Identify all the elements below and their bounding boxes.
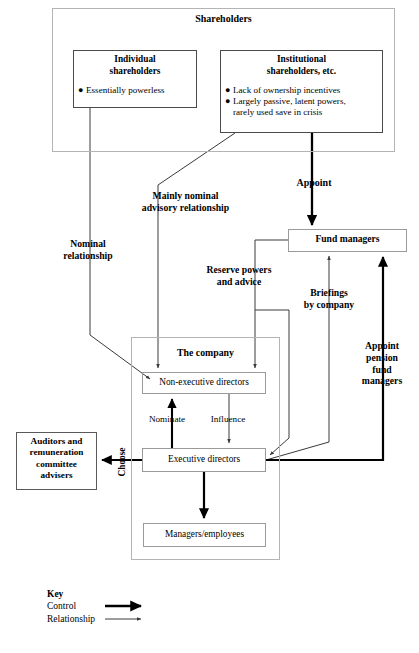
edge-label-briefings: Briefings by company — [291, 287, 367, 311]
individual-shareholders-bullets: ● Essentially powerless — [78, 85, 194, 96]
institutional-shareholders-bullets: ● Lack of ownership incentives ● Largely… — [225, 85, 381, 118]
bullet-text-continuation: rarely used save in crisis — [225, 107, 381, 118]
edge-label-mainly-nominal: Mainly nominal advisory relationship — [113, 190, 258, 214]
bullet-dot-icon: ● — [78, 85, 86, 96]
bullet-item: ● Largely passive, latent powers, — [225, 96, 381, 107]
bullet-dot-icon: ● — [225, 96, 233, 107]
edge-label-appoint-pension: Appoint pension fund managers — [345, 340, 419, 387]
institutional-shareholders-title: Institutional shareholders, etc. — [220, 54, 383, 77]
governance-diagram: Shareholders Individual shareholders ● E… — [0, 0, 419, 653]
edge-label-appoint-top: Appoint — [278, 177, 350, 188]
fund-managers-label: Fund managers — [288, 234, 407, 245]
edge-label-nominal-relationship: Nominal relationship — [42, 238, 134, 262]
company-group-title: The company — [131, 348, 280, 359]
bullet-item: ● Lack of ownership incentives — [225, 85, 381, 96]
key-title: Key — [47, 589, 107, 600]
edge-label-choose: Choose — [97, 437, 147, 487]
auditors-remuneration-label: Auditors and remuneration committee advi… — [16, 436, 97, 482]
key-control-label: Control — [47, 601, 117, 612]
shareholders-group-title: Shareholders — [52, 13, 395, 24]
bullet-item: ● Essentially powerless — [78, 85, 194, 96]
bullet-text: Essentially powerless — [86, 85, 194, 96]
executive-directors-label: Executive directors — [142, 454, 266, 464]
individual-shareholders-title: Individual shareholders — [73, 54, 197, 77]
non-executive-directors-label: Non-executive directors — [142, 377, 266, 387]
key-relationship-label: Relationship — [47, 614, 133, 625]
edge-label-influence: Influence — [200, 414, 256, 424]
bullet-dot-icon: ● — [225, 85, 233, 96]
edge-mainly-nominal-advisory — [158, 133, 235, 368]
edge-label-nominate: Nominate — [138, 414, 196, 424]
bullet-text: Lack of ownership incentives — [233, 85, 381, 96]
managers-employees-label: Managers/employees — [143, 529, 266, 539]
edge-label-reserve-powers: Reserve powers and advice — [185, 264, 293, 288]
bullet-text: Largely passive, latent powers, — [233, 96, 381, 107]
